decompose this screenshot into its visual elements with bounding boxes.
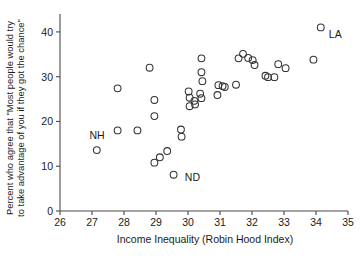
x-tick-label: 34 xyxy=(310,216,322,228)
point-annotations: NHNDLA xyxy=(89,28,341,183)
data-point xyxy=(271,74,278,81)
y-tick-label: 20 xyxy=(41,115,53,127)
data-point xyxy=(199,78,206,85)
point-label-la: LA xyxy=(329,28,342,40)
x-tick-label: 32 xyxy=(246,216,258,228)
data-point xyxy=(221,84,228,91)
data-point xyxy=(93,147,100,154)
data-point xyxy=(164,148,171,155)
data-point xyxy=(146,64,153,71)
data-point xyxy=(198,69,205,76)
data-point xyxy=(151,97,158,104)
data-point xyxy=(178,126,185,133)
y-tick-label: 30 xyxy=(41,71,53,83)
x-tick-label: 31 xyxy=(214,216,226,228)
x-tick-label: 28 xyxy=(118,216,130,228)
data-point xyxy=(114,85,121,92)
data-point xyxy=(198,55,205,62)
y-tick-label: 40 xyxy=(41,26,53,38)
data-point xyxy=(317,24,324,31)
x-tick-label: 26 xyxy=(54,216,66,228)
data-point xyxy=(151,159,158,166)
x-tick-label: 30 xyxy=(182,216,194,228)
data-point xyxy=(178,133,185,140)
x-tick-label: 29 xyxy=(150,216,162,228)
y-axis-label-line1: Percent who agree that "Most people woul… xyxy=(4,21,15,215)
axis-ticks: 26272829303132333435010203040 xyxy=(41,26,354,228)
data-point xyxy=(233,81,240,88)
y-axis-label-line2: to take advantage of you if they got the… xyxy=(15,19,26,217)
x-axis-title: Income Inequality (Robin Hood Index) xyxy=(117,233,293,245)
data-point xyxy=(282,65,289,72)
data-point xyxy=(197,90,204,97)
scatter-plot-figure: Percent who agree that "Most people woul… xyxy=(0,0,361,257)
data-point xyxy=(156,154,163,161)
data-point xyxy=(185,88,192,95)
y-tick-label: 0 xyxy=(47,205,53,217)
data-point xyxy=(275,61,282,68)
point-label-nd: ND xyxy=(185,171,201,183)
x-tick-label: 33 xyxy=(278,216,290,228)
axes xyxy=(60,14,348,211)
data-point xyxy=(114,127,121,134)
data-point xyxy=(310,56,317,63)
data-point xyxy=(134,127,141,134)
x-tick-label: 35 xyxy=(342,216,354,228)
y-tick-label: 10 xyxy=(41,160,53,172)
y-axis-label: Percent who agree that "Most people woul… xyxy=(4,19,26,217)
point-label-nh: NH xyxy=(89,129,104,141)
x-tick-label: 27 xyxy=(86,216,98,228)
data-point xyxy=(170,171,177,178)
data-point xyxy=(214,92,221,99)
data-point xyxy=(151,113,158,120)
data-point xyxy=(198,95,205,102)
plot-canvas: Percent who agree that "Most people woul… xyxy=(0,0,361,257)
data-point xyxy=(186,94,193,101)
data-points xyxy=(93,24,324,178)
